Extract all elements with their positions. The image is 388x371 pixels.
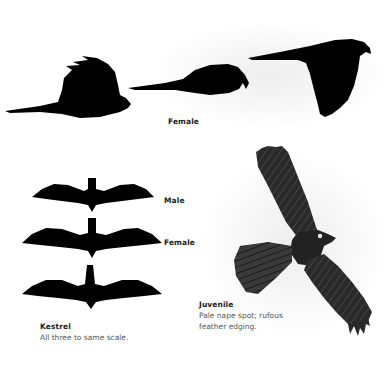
top-row-label: Female	[168, 117, 199, 126]
silhouette-side-gliding	[125, 55, 255, 105]
juvenile-title: Juvenile	[199, 300, 233, 309]
silhouette-top-male	[30, 175, 160, 215]
nape-spot	[318, 234, 322, 238]
juvenile-caption-line1: Pale nape spot; rufous	[199, 310, 283, 321]
silhouette-top-female	[20, 215, 165, 260]
silhouette-side-banking	[240, 30, 388, 125]
male-label: Male	[164, 196, 185, 205]
field-guide-plate: Female Male Female Kestrel All three to …	[0, 0, 388, 371]
female-label: Female	[164, 238, 195, 247]
silhouette-side-flapping	[0, 40, 140, 125]
silhouette-top-kestrel	[20, 262, 165, 312]
kestrel-title: Kestrel	[40, 322, 71, 331]
kestrel-caption: All three to same scale.	[40, 332, 128, 343]
juvenile-caption-line2: feather edging.	[199, 321, 257, 332]
